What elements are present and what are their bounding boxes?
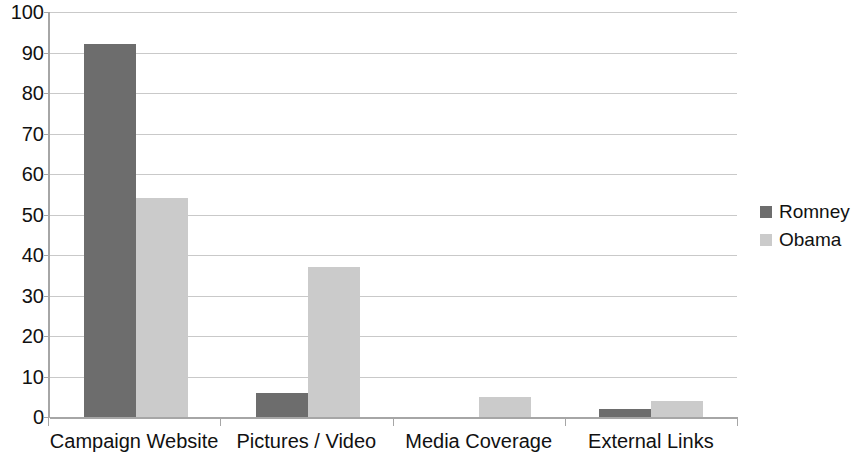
plot-area	[48, 12, 737, 417]
y-axis-tick-label: 80	[0, 83, 44, 103]
bar-romney-pictures-video	[256, 393, 308, 417]
x-axis-category-label: Campaign Website	[48, 428, 220, 456]
bars-layer	[50, 12, 737, 417]
y-axis-tick-label: 70	[0, 124, 44, 144]
legend-label: Romney	[779, 201, 850, 223]
y-axis-tick-label: 10	[0, 367, 44, 387]
legend-label: Obama	[779, 229, 841, 251]
x-axis-category-label: Pictures / Video	[220, 428, 392, 456]
bar-group	[394, 12, 566, 417]
y-axis-tick-label: 40	[0, 245, 44, 265]
bar-romney-external-links	[599, 409, 651, 417]
x-axis-tick	[220, 417, 221, 426]
x-axis-category-label: External Links	[565, 428, 737, 456]
y-axis-tick-label: 50	[0, 205, 44, 225]
x-axis-tick	[565, 417, 566, 426]
x-axis-tick	[393, 417, 394, 426]
bar-group	[50, 12, 222, 417]
x-axis-ticks	[48, 417, 737, 426]
x-axis-tick	[48, 417, 49, 426]
x-axis-tick	[737, 417, 738, 426]
bar-group	[222, 12, 394, 417]
legend-swatch-romney-icon	[760, 206, 772, 218]
y-axis-tick-label: 30	[0, 286, 44, 306]
bar-romney-campaign-website	[84, 44, 136, 417]
y-axis-tick-label: 0	[0, 407, 44, 427]
x-axis-category-label: Media Coverage	[393, 428, 565, 456]
chart-legend: RomneyObama	[760, 198, 851, 254]
y-axis-tick-label: 100	[0, 2, 44, 22]
y-axis-tick-label: 60	[0, 164, 44, 184]
bar-obama-pictures-video	[308, 267, 360, 417]
bar-obama-external-links	[651, 401, 703, 417]
y-axis-tick-label: 90	[0, 43, 44, 63]
y-axis-tick-label: 20	[0, 326, 44, 346]
bar-obama-media-coverage	[479, 397, 531, 417]
legend-item-romney[interactable]: Romney	[760, 198, 851, 226]
legend-item-obama[interactable]: Obama	[760, 226, 851, 254]
bar-chart: 1009080706050403020100 Campaign WebsiteP…	[0, 0, 851, 456]
bar-obama-campaign-website	[136, 198, 188, 417]
x-axis-labels: Campaign WebsitePictures / VideoMedia Co…	[48, 428, 737, 456]
legend-swatch-obama-icon	[760, 234, 772, 246]
y-axis: 1009080706050403020100	[0, 0, 44, 456]
bar-group	[565, 12, 737, 417]
